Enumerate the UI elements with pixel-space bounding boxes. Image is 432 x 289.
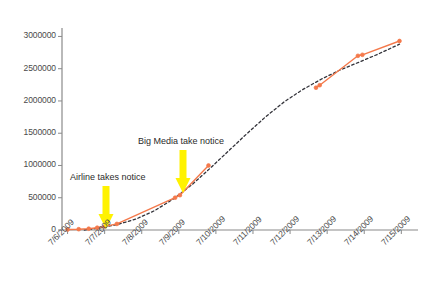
y-tick-label: 2000000 — [0, 95, 56, 105]
data-point-marker — [314, 86, 318, 90]
y-tick-label: 2500000 — [0, 63, 56, 73]
data-point-marker — [361, 53, 365, 57]
trend-line — [84, 44, 399, 230]
data-point-marker — [207, 164, 211, 168]
y-tick-label: 1500000 — [0, 127, 56, 137]
data-point-marker — [318, 83, 322, 87]
y-tick-label: 0 — [0, 224, 56, 234]
annotation-label-airline: Airline takes notice — [70, 172, 146, 182]
y-tick-label: 3000000 — [0, 30, 56, 40]
data-line — [316, 41, 400, 88]
chart-container: Twitter Mentions Over Time 0500000100000… — [0, 0, 432, 289]
axis-lines — [62, 28, 418, 230]
y-tick-label: 1000000 — [0, 159, 56, 169]
trend-line-series — [84, 44, 399, 230]
data-point-marker — [178, 193, 182, 197]
data-point-marker — [173, 196, 177, 200]
data-point-marker — [77, 227, 81, 231]
data-point-marker — [356, 54, 360, 58]
data-point-marker — [115, 222, 119, 226]
annotation-arrows — [99, 150, 191, 229]
data-point-marker — [87, 227, 91, 231]
data-point-markers — [66, 39, 402, 231]
data-line-series — [68, 41, 400, 230]
y-tick-label: 500000 — [0, 192, 56, 202]
data-point-marker — [398, 39, 402, 43]
annotation-label-big-media: Big Media take notice — [138, 136, 224, 146]
